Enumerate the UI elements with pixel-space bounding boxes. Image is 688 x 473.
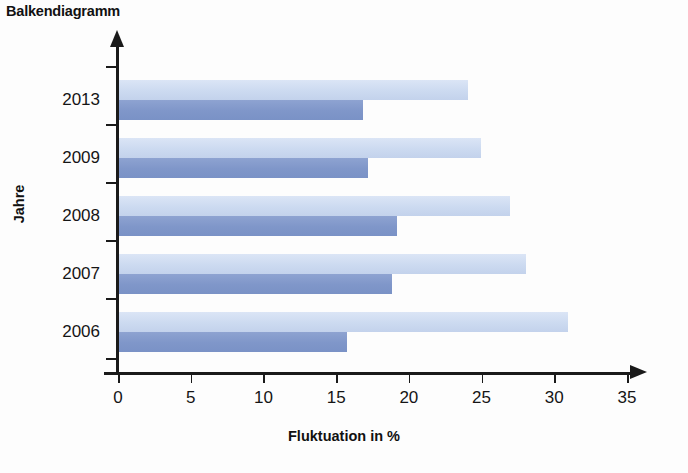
y-axis-arrow-icon (110, 30, 124, 47)
x-axis-title: Fluktuation in % (0, 428, 688, 444)
bar-2008-dark (119, 216, 397, 236)
x-axis-tick-label: 10 (243, 388, 283, 408)
bar-2007-dark (119, 274, 392, 294)
bar-2013-light (119, 80, 468, 100)
y-axis-tick (106, 66, 117, 68)
bar-2006-light (119, 312, 568, 332)
y-axis-tick (106, 358, 117, 360)
y-axis-tick-label: 2013 (12, 90, 100, 110)
bar-2013-dark (119, 100, 363, 120)
x-axis-tick-label: 35 (607, 388, 647, 408)
x-axis-tick (336, 374, 338, 383)
bar-2009-dark (119, 158, 368, 178)
x-axis-tick-label: 20 (389, 388, 429, 408)
chart-page: Balkendiagramm 05101520253035 2013200920… (0, 0, 688, 473)
x-axis-tick-label: 30 (534, 388, 574, 408)
bar-2006-dark (119, 332, 347, 352)
y-axis-tick (106, 298, 117, 300)
bar-2007-light (119, 254, 526, 274)
y-axis-tick (106, 182, 117, 184)
x-axis-tick (627, 374, 629, 383)
x-axis-tick (191, 374, 193, 383)
x-axis-tick (409, 374, 411, 383)
x-axis-tick (263, 374, 265, 383)
x-axis-tick (118, 374, 120, 383)
y-axis-tick-label: 2006 (12, 322, 100, 342)
x-axis-arrow-icon (630, 365, 647, 379)
x-axis-tick-label: 5 (171, 388, 211, 408)
x-axis-tick (554, 374, 556, 383)
y-axis-tick-label: 2007 (12, 264, 100, 284)
x-axis-tick-label: 15 (316, 388, 356, 408)
y-axis-title: Jahre (11, 159, 27, 249)
y-axis-tick (106, 124, 117, 126)
bar-2009-light (119, 138, 481, 158)
x-axis-tick (482, 374, 484, 383)
bar-2008-light (119, 196, 510, 216)
y-axis-tick (106, 240, 117, 242)
plot-area: 05101520253035 20132009200820072006 (0, 0, 688, 473)
x-axis-tick-label: 0 (98, 388, 138, 408)
x-axis-tick-label: 25 (462, 388, 502, 408)
